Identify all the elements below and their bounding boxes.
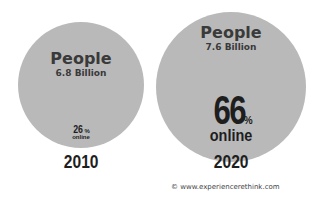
population-value: 7.6 Billion xyxy=(156,42,306,52)
circle-2010: People 6.8 Billion 26% online xyxy=(18,22,144,148)
online-label: online xyxy=(156,127,306,145)
online-percent-number: 66 xyxy=(214,90,246,130)
circle-2020: People 7.6 Billion 66% online xyxy=(156,12,306,162)
year-label-2010: 2010 xyxy=(41,152,121,172)
copyright-notice: © www.experiencerethink.com xyxy=(171,182,311,192)
people-label: People xyxy=(156,25,306,41)
online-label: online xyxy=(18,134,144,141)
year-text: 2010 xyxy=(64,152,99,172)
population-value: 6.8 Billion xyxy=(18,68,144,78)
online-label-text: online xyxy=(210,127,253,145)
year-text: 2020 xyxy=(214,152,249,172)
people-label: People xyxy=(18,51,144,67)
year-label-2020: 2020 xyxy=(191,152,271,172)
